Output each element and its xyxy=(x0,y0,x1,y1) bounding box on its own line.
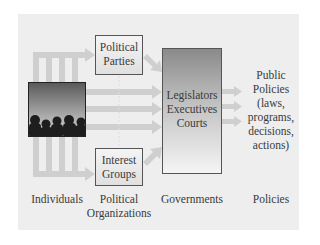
policies-line-6: actions) xyxy=(242,138,300,152)
interest-groups-box: Interest Groups xyxy=(95,148,143,186)
public-policies-text: Public Policies (laws, programs, decisio… xyxy=(242,68,300,152)
label-organizations: Organizations xyxy=(82,206,156,220)
policies-line-4: programs, xyxy=(242,110,300,124)
political-parties-line-2: Parties xyxy=(96,54,142,68)
policies-line-1: Public xyxy=(242,68,300,82)
interest-groups-line-1: Interest xyxy=(96,153,142,167)
government-legislators: Legislators xyxy=(163,88,221,102)
policies-line-2: Policies xyxy=(242,82,300,96)
government-courts: Courts xyxy=(163,116,221,130)
government-box: Legislators Executives Courts xyxy=(162,48,222,174)
individuals-crowd-image xyxy=(28,82,86,137)
political-parties-box: Political Parties xyxy=(95,35,143,75)
political-parties-line-1: Political xyxy=(96,40,142,54)
interest-groups-line-2: Groups xyxy=(96,167,142,181)
crowd-silhouette-icon xyxy=(29,83,86,137)
government-executives: Executives xyxy=(163,102,221,116)
policies-line-3: (laws, xyxy=(242,96,300,110)
label-political: Political xyxy=(82,192,156,206)
label-political-organizations: Political Organizations xyxy=(82,192,156,220)
label-governments: Governments xyxy=(156,192,228,206)
label-policies: Policies xyxy=(242,192,300,206)
policies-line-5: decisions, xyxy=(242,124,300,138)
